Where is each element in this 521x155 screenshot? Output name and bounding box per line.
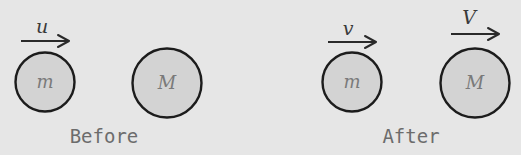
large-ball-after: M: [441, 49, 510, 118]
caption-after: After: [382, 125, 439, 147]
small-ball-after: m: [323, 53, 382, 112]
before-panel: u m M Before: [16, 15, 202, 147]
after-panel: v m V M After: [323, 6, 510, 147]
caption-before: Before: [70, 125, 139, 147]
small-ball-before: m: [16, 53, 75, 112]
velocity-arrow-v: v: [328, 17, 376, 48]
velocity-arrow-u: u: [21, 15, 69, 47]
large-ball-before: M: [133, 49, 202, 118]
velocity-arrow-V: V: [451, 6, 499, 40]
velocity-label-V: V: [462, 6, 478, 28]
velocity-label-u: u: [36, 15, 48, 37]
mass-label-m-after: m: [343, 71, 360, 92]
mass-label-M-after: M: [465, 72, 485, 93]
collision-diagram: u m M Before v m V: [0, 0, 521, 155]
mass-label-M-before: M: [157, 72, 177, 93]
velocity-label-v: v: [343, 17, 354, 39]
mass-label-m-before: m: [36, 71, 53, 92]
